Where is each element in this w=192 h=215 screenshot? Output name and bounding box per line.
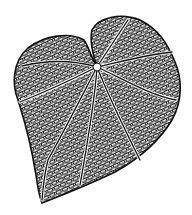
leaf-blade (0, 0, 192, 215)
leaf-illustration: Heart-shaped leaf illustration with reti… (0, 0, 192, 215)
leaf-drawing (0, 0, 192, 215)
petiole-junction (93, 63, 101, 71)
